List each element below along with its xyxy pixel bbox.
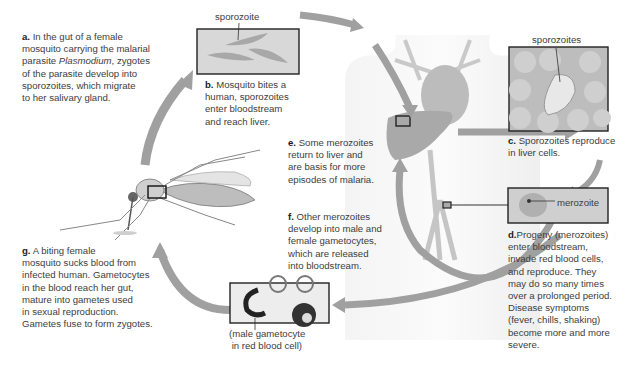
line: , zygotes bbox=[112, 55, 150, 66]
panel-gametocyte bbox=[230, 276, 329, 330]
line: Progeny (merozoites) bbox=[517, 229, 609, 240]
mosquito-icon bbox=[60, 150, 260, 240]
merozoite-label: merozoite bbox=[557, 197, 599, 208]
step-c-text: c. Sporozoites reproduce in liver cells. bbox=[508, 135, 628, 159]
line: severe. bbox=[508, 339, 539, 350]
line: mosquito sucks blood from bbox=[22, 257, 136, 268]
line: (male gametocyte bbox=[229, 328, 305, 339]
step-e-text: e. Some merozoites return to liver and a… bbox=[288, 137, 398, 186]
line: female gametocytes, bbox=[288, 235, 377, 246]
line: mature into gametes used bbox=[22, 294, 133, 305]
line: Disease symptoms bbox=[508, 302, 589, 313]
sporozoite-label: sporozoite bbox=[215, 11, 259, 22]
line: in red blood cell) bbox=[232, 340, 302, 351]
italic-term: Plasmodium bbox=[59, 55, 112, 66]
line: and reproduce. They bbox=[508, 266, 596, 277]
line: human, sporozoites bbox=[205, 91, 289, 102]
line: Some merozoites bbox=[299, 137, 374, 148]
step-letter-d: d. bbox=[508, 229, 517, 240]
step-letter-g: g. bbox=[22, 245, 31, 256]
line: (fever, chills, shaking) bbox=[508, 314, 600, 325]
step-d-text: d.Progeny (merozoites) enter bloodstream… bbox=[508, 229, 630, 351]
line: infected human. Gametocytes bbox=[22, 269, 149, 280]
step-f-text: f. Other merozoites develop into male an… bbox=[288, 211, 408, 272]
line: may do so many times bbox=[508, 278, 604, 289]
line: mosquito carrying the malarial bbox=[22, 43, 150, 54]
step-letter-c: c. bbox=[508, 135, 516, 146]
line: in the blood reach her gut, bbox=[22, 282, 133, 293]
line: Mosquito bites a bbox=[216, 79, 286, 90]
line: develop into male and bbox=[288, 223, 382, 234]
step-letter-e: e. bbox=[288, 137, 296, 148]
line: into bloodstream. bbox=[288, 260, 362, 271]
line: Other merozoites bbox=[297, 211, 371, 222]
line: to her salivary gland. bbox=[22, 92, 111, 103]
panel-liver-cells bbox=[509, 47, 611, 133]
blood-callout-box bbox=[443, 202, 451, 208]
line: sporozoites, which migrate bbox=[22, 80, 136, 91]
line: over a prolonged period. bbox=[508, 290, 612, 301]
step-g-text: g. A biting female mosquito sucks blood … bbox=[22, 245, 192, 330]
line: of the parasite develop into bbox=[22, 68, 137, 79]
line: enter bloodstream bbox=[205, 103, 282, 114]
line: in sexual reproduction. bbox=[22, 306, 119, 317]
line: enter bloodstream, bbox=[508, 241, 588, 252]
line: invade red blood cells, bbox=[508, 253, 603, 264]
panel-sporozoites bbox=[197, 23, 299, 74]
line: are basis for more bbox=[288, 161, 365, 172]
gametocyte-label: (male gametocyte in red blood cell) bbox=[229, 328, 349, 352]
line: become more and more bbox=[508, 327, 610, 338]
step-letter-f: f. bbox=[288, 211, 294, 222]
line: and reach liver. bbox=[205, 116, 270, 127]
step-letter-b: b. bbox=[205, 79, 214, 90]
line: in liver cells. bbox=[508, 147, 560, 158]
sporozoites-label: sporozoites bbox=[532, 34, 581, 45]
line: episodes of malaria. bbox=[288, 174, 374, 185]
line: Gametes fuse to form zygotes. bbox=[22, 318, 153, 329]
step-letter-a: a. bbox=[22, 31, 30, 42]
line: Sporozoites reproduce bbox=[519, 135, 616, 146]
line: In the gut of a female bbox=[33, 31, 123, 42]
line: which are released bbox=[288, 248, 369, 259]
line: A biting female bbox=[33, 245, 96, 256]
line: return to liver and bbox=[288, 149, 363, 160]
line: parasite bbox=[22, 55, 59, 66]
step-a-text: a. In the gut of a female mosquito carry… bbox=[22, 31, 192, 104]
step-b-text: b. Mosquito bites a human, sporozoites e… bbox=[205, 79, 315, 128]
